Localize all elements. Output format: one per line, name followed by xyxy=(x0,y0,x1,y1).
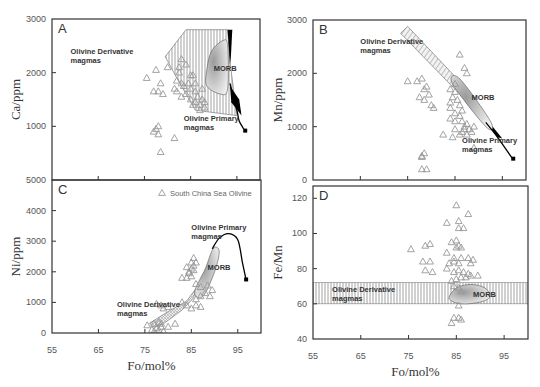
panel-b: Olivine DerivativemagmasMORBOlivine Prim… xyxy=(270,15,526,185)
annotation-label: Olivine Derivative xyxy=(360,37,423,46)
annotation-label: Olivine Primary xyxy=(191,223,247,232)
primary-endpoint-marker xyxy=(243,129,247,133)
annotation-label: magmas xyxy=(191,232,221,241)
morb-label: MORB xyxy=(214,64,237,73)
data-point-triangle xyxy=(183,264,190,270)
y-tick-label: 3000 xyxy=(26,14,46,24)
data-point-triangle xyxy=(453,202,460,208)
data-point-triangle xyxy=(165,323,172,329)
y-tick-label: 3000 xyxy=(287,15,307,25)
x-tick-label: 75 xyxy=(140,345,150,355)
annotation-label: Olivine Derivative xyxy=(117,300,180,309)
panel-c: Olivine PrimarymagmasMORBOlivine Derivat… xyxy=(8,175,261,373)
x-tick-label: 55 xyxy=(308,351,318,361)
data-point-triangle xyxy=(171,135,178,141)
y-tick-label: 3000 xyxy=(26,236,46,246)
data-point-triangle xyxy=(465,211,472,217)
morb-label: MORB xyxy=(472,93,495,102)
y-tick-label: 40 xyxy=(297,334,307,344)
x-tick-label: 85 xyxy=(186,345,196,355)
y-tick-label: 0 xyxy=(41,328,46,338)
data-point-triangle xyxy=(157,80,164,86)
panel-a: Olivine DerivativemagmasMORBOlivine Prim… xyxy=(8,14,260,180)
morb-region xyxy=(195,247,220,298)
x-tick-label: 65 xyxy=(356,351,366,361)
annotation-label: magmas xyxy=(70,56,100,65)
data-point-triangle xyxy=(143,74,150,80)
data-point-triangle xyxy=(150,88,157,94)
legend-triangle-icon xyxy=(159,190,166,196)
data-point-triangle xyxy=(209,287,216,293)
y-axis-title: Ni/ppm xyxy=(8,237,23,277)
data-point-triangle xyxy=(456,51,463,57)
data-point-triangle xyxy=(471,123,478,129)
data-point-triangle xyxy=(443,249,450,255)
plot-area: Olivine PrimarymagmasMORBOlivine Derivat… xyxy=(117,223,248,333)
annotation-label: Olivine Primary xyxy=(462,136,518,145)
data-point-triangle xyxy=(418,75,425,81)
data-point-triangle xyxy=(153,66,160,72)
annotation-label: magmas xyxy=(184,123,214,132)
data-point-triangle xyxy=(427,240,434,246)
data-point-triangle xyxy=(474,272,481,278)
figure: Olivine DerivativemagmasMORBOlivine Prim… xyxy=(0,0,540,387)
annotation-label: magmas xyxy=(360,46,390,55)
y-tick-label: 4000 xyxy=(26,206,46,216)
y-tick-label: 1000 xyxy=(287,122,307,132)
legend-label: South China Sea Olivine xyxy=(170,189,252,198)
y-tick-label: 1000 xyxy=(26,121,46,131)
y-tick-label: 100 xyxy=(292,228,307,238)
data-point-triangle xyxy=(427,258,434,264)
data-point-triangle xyxy=(449,134,456,140)
data-point-triangle xyxy=(155,88,162,94)
x-tick-label: 55 xyxy=(47,345,57,355)
data-point-triangle xyxy=(404,78,411,84)
y-tick-label: 2000 xyxy=(26,68,46,78)
data-point-triangle xyxy=(172,320,179,326)
y-axis-title: Ca/ppm xyxy=(8,79,23,120)
annotation-label: Olivine Primary xyxy=(184,114,240,123)
primary-endpoint-marker xyxy=(511,157,515,161)
x-tick-label: 85 xyxy=(451,351,461,361)
x-tick-label: 75 xyxy=(404,351,414,361)
y-tick-label: 60 xyxy=(297,299,307,309)
y-tick-label: 2000 xyxy=(26,267,46,277)
primary-endpoint-marker xyxy=(244,277,248,281)
plot-area: Olivine DerivativemagmasMORBOlivine Prim… xyxy=(360,26,518,171)
x-axis-title: Fo/mol% xyxy=(127,358,176,373)
panel-d: Olivine DerivativemagmasMORBD55657585954… xyxy=(270,186,528,379)
y-tick-label: 80 xyxy=(297,264,307,274)
annotation-label: magmas xyxy=(332,294,362,303)
y-tick-label: 1000 xyxy=(26,297,46,307)
y-tick-label: 120 xyxy=(292,193,307,203)
x-tick-label: 95 xyxy=(499,351,509,361)
annotation-label: magmas xyxy=(462,145,492,154)
y-tick-label: 5000 xyxy=(26,175,46,185)
panel-letter: C xyxy=(58,182,67,197)
panel-letter: B xyxy=(319,22,328,37)
data-point-triangle xyxy=(179,274,186,280)
panel-letter: A xyxy=(58,21,67,36)
plot-area: Olivine DerivativemagmasMORBOlivine Prim… xyxy=(70,30,247,155)
data-point-triangle xyxy=(455,218,462,224)
y-axis-title: Fe/Mn xyxy=(270,245,285,280)
data-point-triangle xyxy=(443,219,450,225)
data-point-triangle xyxy=(423,166,430,172)
y-tick-label: 2000 xyxy=(287,68,307,78)
annotation-label: Olivine Derivative xyxy=(70,47,133,56)
data-point-triangle xyxy=(419,258,426,264)
y-axis-title: Mn/ppm xyxy=(270,78,285,123)
morb-label: MORB xyxy=(473,290,496,299)
plot-area: Olivine DerivativemagmasMORB xyxy=(313,202,528,326)
data-point-triangle xyxy=(429,269,436,275)
morb-label: MORB xyxy=(208,263,231,272)
x-tick-label: 95 xyxy=(233,345,243,355)
data-point-triangle xyxy=(440,131,447,137)
data-point-triangle xyxy=(460,225,467,231)
panel-letter: D xyxy=(319,188,328,203)
annotation-label: magmas xyxy=(117,309,147,318)
annotation-label: Olivine Derivative xyxy=(332,285,395,294)
plot-frame xyxy=(52,180,261,333)
data-point-triangle xyxy=(422,267,429,273)
data-point-triangle xyxy=(144,322,151,328)
